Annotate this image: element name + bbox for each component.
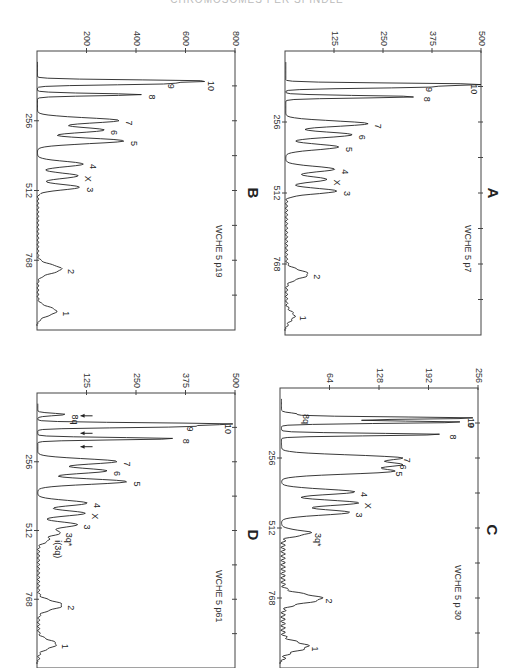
- y-tick-label: 64: [325, 373, 335, 383]
- plot-frame: [37, 393, 235, 668]
- peak-label: 7: [124, 120, 134, 125]
- x-tick-label: 768: [24, 592, 34, 607]
- sample-label: WCHE 5 p61: [214, 570, 224, 623]
- x-tick-label: 512: [267, 520, 277, 535]
- y-tick-label: 250: [379, 31, 389, 46]
- y-tick-label: 600: [181, 31, 191, 46]
- y-tick-label: 250: [132, 373, 142, 388]
- peak-label: X: [90, 513, 100, 519]
- figure-canvas: 12525037550025651276810987654X321AWCHE 5…: [0, 0, 514, 668]
- peak-label: 6: [109, 130, 119, 135]
- peak-label: 1: [61, 311, 71, 316]
- peak-label: 9: [185, 427, 195, 432]
- panel-letter: B: [245, 188, 262, 199]
- peak-label: 3: [85, 187, 95, 192]
- y-tick-label: 128: [375, 368, 385, 383]
- x-tick-label: 256: [24, 454, 34, 469]
- peak-label: 3: [82, 525, 92, 530]
- peak-label: 10: [206, 81, 216, 91]
- peak-label: 2: [66, 605, 76, 610]
- x-tick-label: 256: [24, 113, 34, 128]
- peak-label: 2: [66, 269, 76, 274]
- peak-label: 5: [129, 141, 139, 146]
- peak-label: 9: [466, 422, 476, 427]
- y-tick-label: 375: [428, 31, 438, 46]
- y-tick-label: 400: [132, 31, 142, 46]
- sample-label: WCHE 5 p19: [214, 225, 224, 278]
- peak-label: 1: [310, 646, 320, 651]
- peak-label: X: [83, 176, 93, 182]
- sample-label: WCHE 5 p 30: [453, 565, 463, 620]
- peak-label: 8q: [301, 414, 311, 424]
- panel-a: 12525037550025651276810987654X321AWCHE 5…: [272, 31, 502, 335]
- y-tick-label: 125: [330, 31, 340, 46]
- peak-label: i(3q): [53, 540, 63, 558]
- peak-label: 8: [181, 439, 191, 444]
- sample-label: WCHE 5 p7: [463, 225, 473, 273]
- panel-letter: D: [245, 530, 262, 541]
- peak-label: 5: [344, 147, 354, 152]
- peak-label: 5: [132, 482, 142, 487]
- peak-label: 7: [373, 124, 383, 129]
- histogram-trace: [37, 62, 205, 326]
- panel-c: 641281922562565127688q10987654X33q*21CWC…: [267, 368, 501, 668]
- panel-d: 1252503755002565127688q10987654X33q*i(3q…: [24, 373, 262, 668]
- peak-label: 8: [422, 97, 432, 102]
- y-tick-label: 192: [424, 368, 434, 383]
- peak-label: 3: [342, 191, 352, 196]
- peak-label: 3q*: [64, 533, 74, 547]
- peak-label: 2: [312, 274, 322, 279]
- peak-label: 9: [166, 84, 176, 89]
- peak-label: 10: [223, 424, 233, 434]
- peak-label: 4: [359, 492, 369, 497]
- x-tick-label: 256: [272, 114, 282, 129]
- y-tick-label: 500: [231, 373, 241, 388]
- peak-label: 9: [424, 87, 434, 92]
- y-tick-label: 500: [477, 31, 487, 46]
- histogram-trace: [285, 62, 481, 331]
- peak-label: 4: [92, 503, 102, 508]
- x-tick-label: 768: [267, 590, 277, 605]
- x-tick-label: 512: [24, 523, 34, 538]
- peak-label: 6: [112, 471, 122, 476]
- peak-label: 7: [402, 458, 412, 463]
- y-tick-label: 800: [231, 31, 241, 46]
- panel-letter: C: [484, 525, 501, 536]
- peak-label: 1: [60, 644, 70, 649]
- histogram-trace: [280, 399, 473, 664]
- x-tick-label: 256: [267, 450, 277, 465]
- arrow-head-icon: [81, 431, 85, 435]
- peak-label: 1: [298, 316, 308, 321]
- x-tick-label: 512: [24, 183, 34, 198]
- peak-label: 4: [88, 164, 98, 169]
- peak-label: 10: [469, 84, 479, 94]
- y-tick-label: 200: [82, 31, 92, 46]
- peak-label: 3q*: [313, 533, 323, 547]
- arrow-head-icon: [81, 445, 85, 449]
- peak-label: 6: [357, 135, 367, 140]
- peak-label: 2: [324, 599, 334, 604]
- panel-letter: A: [485, 188, 502, 199]
- plot-frame: [280, 388, 478, 668]
- panel-b: 20040060080025651276810987654X321BWCHE 5…: [24, 31, 262, 330]
- peak-label: X: [332, 179, 342, 185]
- peak-label: 7: [122, 461, 132, 466]
- peak-label: 4: [340, 169, 350, 174]
- x-tick-label: 768: [272, 256, 282, 271]
- y-tick-label: 256: [474, 368, 484, 383]
- peak-label: 5: [394, 471, 404, 476]
- peak-label: 3: [354, 512, 364, 517]
- peak-label: 8q: [70, 414, 80, 424]
- peak-label: 8: [147, 95, 157, 100]
- y-tick-label: 125: [82, 373, 92, 388]
- peak-label: X: [363, 503, 373, 509]
- x-tick-label: 512: [272, 185, 282, 200]
- peak-label: 6: [398, 465, 408, 470]
- x-tick-label: 768: [24, 253, 34, 268]
- y-tick-label: 375: [181, 373, 191, 388]
- peak-label: 8: [448, 434, 458, 439]
- plot-frame: [285, 51, 481, 335]
